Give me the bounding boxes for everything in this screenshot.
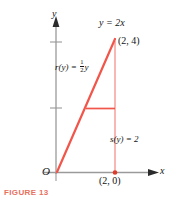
x-axis-label: x — [160, 166, 164, 176]
radius-function-label: r(y) = 12y — [55, 59, 89, 74]
y-axis-label: y — [52, 9, 56, 19]
x-axis-arrowhead — [148, 169, 159, 176]
radius-label-prefix: r(y) = — [55, 62, 79, 72]
origin-label: O — [42, 166, 50, 177]
point-label-top: (2, 4) — [118, 36, 140, 46]
figure-caption: FIGURE 13 — [4, 188, 49, 197]
figure-plot — [0, 0, 171, 212]
radius-fraction: 12 — [80, 59, 84, 74]
point-label-bottom: (2, 0) — [99, 176, 121, 186]
figure-container: y x O y = 2x (2, 4) (2, 0) r(y) = 12y s(… — [0, 0, 171, 212]
radius-fraction-denominator: 2 — [80, 67, 84, 74]
height-function-label: s(y) = 2 — [110, 135, 139, 144]
radius-label-suffix: y — [85, 62, 89, 72]
line-equation-label: y = 2x — [99, 18, 125, 28]
